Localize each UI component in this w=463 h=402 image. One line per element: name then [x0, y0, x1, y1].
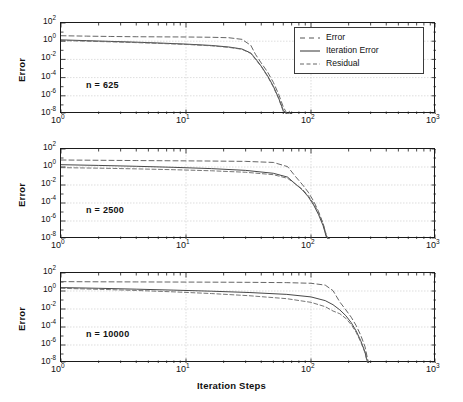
x-tick-label-panel-3-3: 103: [426, 365, 440, 374]
y-tick-label-panel-1-3: 10-4: [41, 72, 56, 81]
y-tick-label-panel-1-0: 102: [43, 17, 56, 26]
y-tick-label-panel-2-1: 100: [43, 161, 56, 170]
legend-item-iteration-error: Iteration Error: [299, 44, 418, 57]
legend-swatch-dashed-line-icon: [299, 59, 321, 69]
panel-annotation-2: n = 2500: [86, 205, 124, 215]
legend-label: Iteration Error: [326, 46, 379, 55]
y-tick-label-panel-2-2: 10-2: [41, 179, 56, 188]
x-tick-label-panel-2-3: 103: [426, 241, 440, 250]
x-tick-label-panel-3-1: 101: [176, 365, 190, 374]
y-axis-label-panel-3: Error: [16, 307, 27, 331]
legend: ErrorIteration ErrorResidual: [294, 27, 424, 74]
series-line-residual-panel-1: [61, 40, 292, 114]
legend-swatch-dashed-line-icon: [299, 33, 321, 43]
plot-canvas-panel-2: [61, 149, 436, 239]
grid-lines-panel-3: [61, 273, 436, 363]
figure-log-log-convergence-plot: 10210010-210-410-610-8100101102103Errorn…: [0, 0, 463, 402]
grid-lines-panel-2: [61, 149, 436, 239]
y-tick-label-panel-1-4: 10-6: [41, 90, 56, 99]
y-tick-label-panel-1-2: 10-2: [41, 53, 56, 62]
series-line-error-panel-2: [61, 160, 329, 239]
plot-canvas-panel-3: [61, 273, 436, 363]
series-line-iteration-error-panel-1: [61, 40, 292, 114]
x-tick-label-panel-2-1: 101: [176, 241, 190, 250]
y-axis-label-panel-1: Error: [16, 57, 27, 81]
series-line-iteration-error-panel-2: [61, 165, 329, 239]
panel-annotation-3: n = 10000: [86, 329, 129, 339]
panel-annotation-1: n = 625: [86, 80, 119, 90]
y-axis-label-panel-2: Error: [16, 183, 27, 207]
series-line-iteration-error-panel-3: [61, 288, 369, 363]
plot-axes-panel-2: [60, 148, 435, 238]
y-tick-label-panel-2-4: 10-6: [41, 215, 56, 224]
y-tick-label-panel-2-3: 10-4: [41, 197, 56, 206]
y-tick-label-panel-2-0: 102: [43, 143, 56, 152]
x-tick-label-panel-3-0: 100: [51, 365, 65, 374]
y-tick-label-panel-3-2: 10-2: [41, 303, 56, 312]
x-tick-label-panel-2-2: 102: [301, 241, 315, 250]
series-line-error-panel-1: [61, 36, 292, 114]
y-tick-label-panel-1-1: 100: [43, 35, 56, 44]
legend-label: Error: [326, 33, 345, 42]
y-tick-label-panel-3-1: 100: [43, 285, 56, 294]
x-tick-label-panel-1-3: 103: [426, 116, 440, 125]
x-tick-label-panel-1-0: 100: [51, 116, 65, 125]
x-tick-label-panel-1-2: 102: [301, 116, 315, 125]
legend-swatch-solid-line-icon: [299, 46, 321, 56]
legend-item-error: Error: [299, 31, 418, 44]
x-tick-label-panel-1-1: 101: [176, 116, 190, 125]
legend-label: Residual: [326, 59, 359, 68]
x-tick-label-panel-2-0: 100: [51, 241, 65, 250]
y-tick-label-panel-3-3: 10-4: [41, 321, 56, 330]
y-tick-label-panel-3-4: 10-6: [41, 339, 56, 348]
x-tick-label-panel-3-2: 102: [301, 365, 315, 374]
legend-item-residual: Residual: [299, 57, 418, 70]
y-tick-label-panel-3-0: 102: [43, 267, 56, 276]
series-line-error-panel-3: [61, 282, 369, 363]
x-axis-label: Iteration Steps: [0, 380, 463, 391]
plot-axes-panel-3: [60, 272, 435, 362]
